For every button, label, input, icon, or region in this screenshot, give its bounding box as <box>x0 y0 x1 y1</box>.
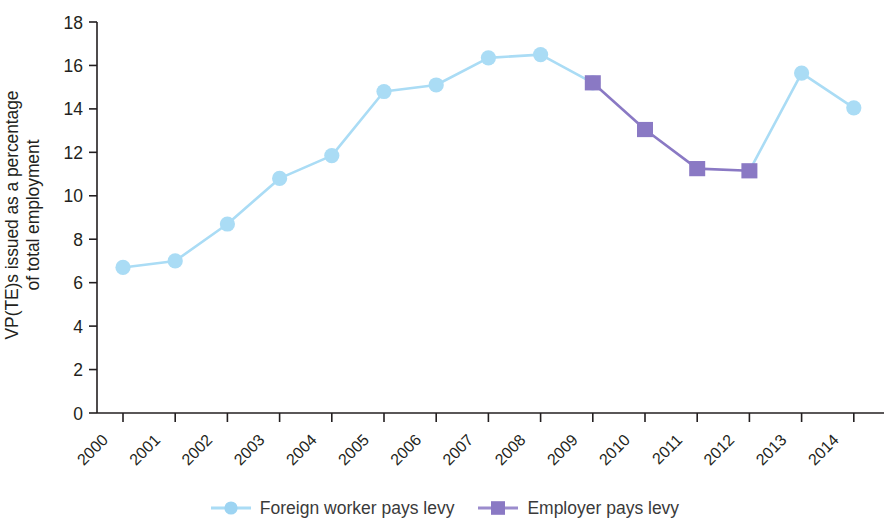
y-tick-label: 14 <box>64 99 84 119</box>
x-tick-label: 2000 <box>74 431 111 468</box>
data-point-marker <box>272 171 287 186</box>
series-line-0 <box>802 73 854 108</box>
series-line-1 <box>593 83 750 171</box>
y-axis-title-line-2: of total employment <box>23 91 44 340</box>
series-line-0 <box>123 55 593 268</box>
chart-container: VP(TE)s issued as a percentage of total … <box>0 0 888 524</box>
y-axis-ticks: 024681012141618 <box>64 13 97 424</box>
data-point-marker <box>481 50 496 65</box>
legend-label-foreign-worker-pays-levy: Foreign worker pays levy <box>260 498 455 519</box>
x-tick-label: 2007 <box>439 431 476 468</box>
data-point-marker <box>324 148 339 163</box>
data-point-marker <box>794 65 809 80</box>
data-point-marker <box>429 77 444 92</box>
y-tick-label: 18 <box>64 13 83 33</box>
chart-legend: Foreign worker pays levy Employer pays l… <box>0 492 888 524</box>
y-tick-label: 10 <box>64 186 84 206</box>
x-tick-label: 2002 <box>178 431 215 468</box>
data-point-marker <box>689 161 705 176</box>
x-axis-tick-labels: 2000200120022003200420052006200720082009… <box>74 431 842 468</box>
y-tick-label: 16 <box>64 56 83 76</box>
legend-item-foreign-worker-pays-levy[interactable]: Foreign worker pays levy <box>209 498 455 519</box>
data-point-marker <box>376 84 391 99</box>
data-point-marker <box>220 216 235 231</box>
series-connector-line <box>749 73 801 171</box>
x-tick-label: 2006 <box>387 431 424 468</box>
legend-circle-icon <box>209 499 253 517</box>
y-tick-label: 4 <box>73 317 83 337</box>
x-tick-label: 2003 <box>231 431 268 468</box>
data-point-marker <box>115 260 130 275</box>
x-tick-label: 2014 <box>805 431 842 468</box>
y-tick-label: 8 <box>73 230 83 250</box>
x-tick-label: 2010 <box>596 431 633 468</box>
y-tick-label: 0 <box>73 404 83 424</box>
data-point-marker <box>533 47 548 62</box>
x-tick-label: 2008 <box>492 431 529 468</box>
data-point-marker <box>637 122 653 137</box>
x-tick-label: 2004 <box>283 431 320 468</box>
x-tick-label: 2011 <box>649 431 685 467</box>
data-point-marker <box>168 253 183 268</box>
data-point-marker <box>741 163 757 178</box>
series-lines <box>123 55 854 268</box>
legend-item-employer-pays-levy[interactable]: Employer pays levy <box>476 498 679 519</box>
x-tick-label: 2001 <box>126 431 163 468</box>
y-tick-label: 6 <box>73 273 83 293</box>
legend-square-icon <box>476 499 520 517</box>
y-axis-title-line-1: VP(TE)s issued as a percentage <box>2 91 22 340</box>
x-tick-label: 2005 <box>335 431 372 468</box>
x-tick-label: 2012 <box>700 431 737 468</box>
y-tick-label: 12 <box>64 143 83 163</box>
x-axis-ticks <box>123 413 854 422</box>
y-tick-label: 2 <box>73 360 83 380</box>
y-axis-title: VP(TE)s issued as a percentage of total … <box>0 0 46 430</box>
series-markers <box>115 47 861 275</box>
x-tick-label: 2013 <box>753 431 790 468</box>
data-point-marker <box>846 100 861 115</box>
legend-label-employer-pays-levy: Employer pays levy <box>527 498 679 519</box>
data-point-marker <box>585 75 601 90</box>
x-tick-label: 2009 <box>544 431 581 468</box>
plot-area: 024681012141618 200020012002200320042005… <box>0 0 888 492</box>
